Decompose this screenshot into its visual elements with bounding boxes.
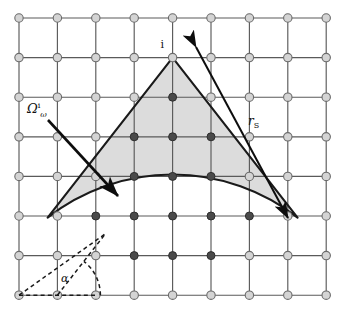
grid-node <box>168 291 176 299</box>
grid-node <box>284 291 292 299</box>
grid-node <box>284 53 292 61</box>
grid-node-highlighted <box>169 252 177 260</box>
grid-node <box>322 93 330 101</box>
grid-node <box>92 53 100 61</box>
grid-node <box>53 212 61 220</box>
angle-alpha-construction <box>19 234 105 295</box>
grid-node-highlighted <box>207 172 215 180</box>
grid-node <box>15 133 23 141</box>
angle-label: α <box>61 272 68 285</box>
grid-node <box>15 172 23 180</box>
grid-node <box>284 14 292 22</box>
grid-node <box>322 251 330 259</box>
grid-node <box>15 93 23 101</box>
grid-node <box>15 14 23 22</box>
radius-label: rS <box>248 114 259 130</box>
grid-node <box>322 14 330 22</box>
grid-node <box>53 14 61 22</box>
grid-node <box>284 133 292 141</box>
grid-node <box>245 172 253 180</box>
grid-node <box>245 251 253 259</box>
grid-node <box>284 251 292 259</box>
grid-node <box>15 53 23 61</box>
omega-label: Ωiω <box>27 101 47 119</box>
grid-node <box>168 14 176 22</box>
grid-node <box>284 93 292 101</box>
grid-node <box>53 53 61 61</box>
grid-node <box>130 93 138 101</box>
grid-node <box>92 93 100 101</box>
grid-node <box>245 53 253 61</box>
grid-node <box>207 14 215 22</box>
grid-node <box>53 93 61 101</box>
omega-symbol: Ω <box>27 101 38 116</box>
grid-node <box>207 53 215 61</box>
grid-node-highlighted <box>207 252 215 260</box>
grid-node-highlighted <box>169 172 177 180</box>
grid-node <box>322 212 330 220</box>
grid-node-highlighted <box>130 172 138 180</box>
grid-node <box>92 133 100 141</box>
grid-node <box>322 133 330 141</box>
grid-node-highlighted <box>130 133 138 141</box>
grid-node-highlighted <box>207 212 215 220</box>
grid-node <box>322 291 330 299</box>
grid-node <box>130 14 138 22</box>
grid-node <box>53 172 61 180</box>
grid-node-highlighted <box>130 212 138 220</box>
grid-node <box>207 93 215 101</box>
apex-node-label: i <box>161 38 165 51</box>
grid-node-highlighted <box>207 133 215 141</box>
omega-superscript: i <box>38 101 41 110</box>
radius-subscript: S <box>254 121 259 130</box>
grid-node-highlighted <box>130 252 138 260</box>
omega-subscript: ω <box>40 110 47 119</box>
grid-node-highlighted <box>169 93 177 101</box>
grid-node <box>322 53 330 61</box>
grid-node <box>92 14 100 22</box>
grid-node <box>245 93 253 101</box>
grid-node <box>53 251 61 259</box>
grid-node <box>284 172 292 180</box>
grid-node <box>92 251 100 259</box>
grid-node <box>15 212 23 220</box>
grid-node <box>245 291 253 299</box>
grid-node <box>245 14 253 22</box>
grid-node <box>130 53 138 61</box>
grid-node <box>168 53 176 61</box>
grid-node <box>15 251 23 259</box>
grid-node-highlighted <box>169 133 177 141</box>
grid-node <box>207 291 215 299</box>
grid-node <box>322 172 330 180</box>
geometry-diagram-svg <box>0 0 345 314</box>
grid-node-highlighted <box>169 212 177 220</box>
figure-canvas: i rS Ωiω α <box>0 0 345 314</box>
grid-node-highlighted <box>245 212 253 220</box>
grid-node <box>130 291 138 299</box>
grid-node-highlighted <box>92 212 100 220</box>
